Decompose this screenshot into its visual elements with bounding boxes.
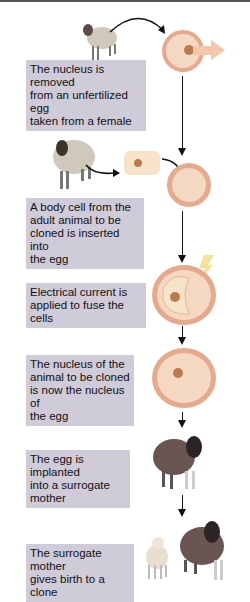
- step-3-label: Electrical current is applied to fuse th…: [26, 283, 146, 328]
- step-6-label: The surrogate mother gives birth to a cl…: [26, 544, 134, 602]
- step-2-label: A body cell from the adult animal to be …: [26, 198, 144, 269]
- flow-arrow-1: [182, 76, 183, 149]
- enucleated-egg-icon: [165, 161, 213, 209]
- reconstructed-egg-icon: [151, 347, 217, 409]
- step-5-label: The egg is implanted into a surrogate mo…: [26, 450, 130, 508]
- surrogate-sheep-icon: [152, 433, 206, 493]
- flow-arrow-2: [182, 211, 183, 256]
- top-border: [0, 0, 250, 2]
- surrogate-sheep-icon: [178, 520, 232, 582]
- transfer-arrow-icon: [84, 163, 124, 179]
- body-cell-icon: [123, 150, 161, 176]
- fused-cell-icon: [151, 264, 217, 326]
- step-1-label: The nucleus is removed from an unfertili…: [26, 60, 146, 131]
- lamb-icon: [143, 537, 173, 581]
- flow-arrow-5: [182, 495, 183, 510]
- step-4-label: The nucleus of the animal to be cloned i…: [26, 355, 134, 426]
- egg-cell-icon: [159, 28, 229, 74]
